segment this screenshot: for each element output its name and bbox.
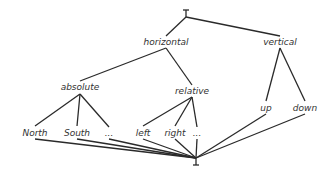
edge-absolute-south bbox=[77, 94, 80, 126]
node-down: down bbox=[293, 103, 318, 113]
edge-absolute-abs_more bbox=[80, 94, 109, 127]
edge-down-bottom bbox=[196, 114, 305, 158]
node-up: up bbox=[260, 103, 272, 113]
node-labels: horizontal vertical absolute relative up… bbox=[22, 37, 317, 138]
edge-top-vertical bbox=[186, 17, 280, 36]
edge-relative-rel_more bbox=[192, 97, 197, 127]
edge-vertical-up bbox=[266, 48, 280, 101]
edge-relative-left bbox=[143, 97, 192, 126]
node-vertical: vertical bbox=[263, 37, 297, 47]
top-symbol bbox=[183, 10, 189, 17]
bottom-symbol bbox=[193, 158, 199, 165]
edge-vertical-down bbox=[280, 48, 305, 101]
edge-rel_more-bottom bbox=[196, 139, 197, 158]
lattice-diagram: horizontal vertical absolute relative up… bbox=[0, 0, 332, 178]
edge-absolute-north bbox=[35, 94, 80, 126]
node-relative: relative bbox=[175, 86, 210, 96]
node-right: right bbox=[164, 128, 186, 138]
node-absolute-ellipsis: ... bbox=[105, 128, 114, 138]
edge-horizontal-absolute bbox=[80, 48, 166, 81]
node-horizontal: horizontal bbox=[144, 37, 189, 47]
node-relative-ellipsis: ... bbox=[193, 128, 202, 138]
node-south: South bbox=[64, 128, 90, 138]
edge-horizontal-relative bbox=[166, 48, 192, 85]
node-left: left bbox=[136, 128, 151, 138]
edge-north-bottom bbox=[35, 139, 196, 158]
edge-up-bottom bbox=[196, 114, 266, 158]
node-north: North bbox=[22, 128, 47, 138]
edge-top-horizontal bbox=[166, 17, 186, 36]
node-absolute: absolute bbox=[61, 82, 100, 92]
